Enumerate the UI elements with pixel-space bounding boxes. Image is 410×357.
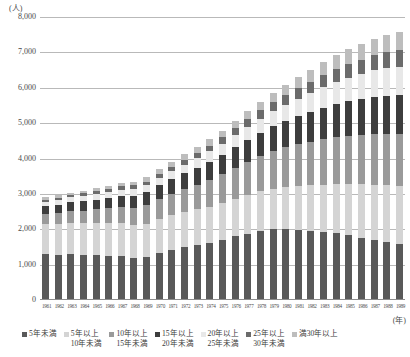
bar-segment (156, 185, 163, 199)
bar-segment (371, 70, 378, 96)
legend-item[interactable]: 5年以上10年未満 (64, 329, 103, 348)
legend-item[interactable]: 25年以上30年未満 (246, 329, 285, 348)
bar-segment (358, 184, 365, 237)
legend-item[interactable]: 10年以上15年未満 (109, 329, 148, 348)
bar-segment (333, 184, 340, 233)
bar-segment (181, 212, 188, 247)
x-axis-tick-label: 1986 (358, 301, 365, 315)
bar-segment (307, 82, 314, 93)
bar-segment (118, 223, 125, 256)
bar-segment (320, 62, 327, 75)
legend-item[interactable]: 5年未満 (22, 329, 57, 339)
bar-segment (371, 185, 378, 240)
bar-segment (206, 180, 213, 207)
bar-segment (156, 219, 163, 253)
bar-segment (181, 189, 188, 212)
x-axis-tick-label: 1980 (282, 301, 289, 315)
x-axis-tick-label: 1987 (371, 301, 378, 315)
legend-swatch (22, 332, 27, 337)
bar-segment (42, 214, 49, 224)
legend-swatch (155, 332, 160, 337)
bar-segment (257, 119, 264, 133)
bar-segment (295, 186, 302, 230)
bar-segment (257, 133, 264, 156)
bar-segment (143, 205, 150, 223)
bar-segment (371, 97, 378, 134)
bar-column (42, 17, 49, 300)
bar-segment (143, 185, 150, 192)
bar-segment (270, 126, 277, 151)
bar-segment (282, 187, 289, 229)
legend-label: 5年未満 (29, 329, 57, 339)
bar-segment (295, 116, 302, 144)
x-axis-tick-label: 1981 (295, 301, 302, 315)
bar-segment (383, 242, 390, 300)
x-axis-tick-label: 1989 (396, 301, 403, 315)
bar-segment (181, 173, 188, 189)
legend-item[interactable]: 15年以上20年未満 (155, 329, 194, 348)
bar-segment (383, 52, 390, 68)
bar-segment (55, 205, 62, 213)
x-axis-tick-label: 1975 (219, 301, 226, 315)
bar-segment (320, 108, 327, 139)
bar-segment (307, 112, 314, 142)
x-axis-tick-label: 1985 (345, 301, 352, 315)
bar-column (118, 17, 125, 300)
bar-column (282, 17, 289, 300)
legend-swatch (201, 332, 206, 337)
x-axis-tick-label: 1966 (105, 301, 112, 315)
bar-segment (118, 256, 125, 300)
bar-segment (80, 211, 87, 224)
bar-segment (320, 185, 327, 232)
plot-area (40, 17, 405, 300)
bar-segment (358, 99, 365, 135)
bar-segment (206, 207, 213, 243)
bar-column (358, 17, 365, 300)
bar-segment (105, 208, 112, 223)
x-axis-tick-label: 1979 (270, 301, 277, 315)
bar-column (295, 17, 302, 300)
bar-segment (295, 144, 302, 186)
bar-segment (244, 195, 251, 234)
bar-segment (67, 254, 74, 300)
bar-segment (333, 55, 340, 69)
legend-label-line2: 15年未満 (116, 339, 148, 349)
x-axis-tick-label: 1969 (143, 301, 150, 315)
bar-segment (232, 128, 239, 135)
x-axis-tick-label: 1983 (320, 301, 327, 315)
legend-item[interactable]: 満30年以上 (292, 329, 339, 339)
legend-swatch (64, 332, 69, 337)
bar-segment (345, 184, 352, 235)
bar-segment (307, 185, 314, 230)
x-axis-tick-label: 1962 (55, 301, 62, 315)
bar-segment (168, 179, 175, 194)
bar-segment (383, 96, 390, 135)
x-axis-tick-label: 1982 (307, 301, 314, 315)
bar-segment (270, 189, 277, 230)
bar-segment (232, 199, 239, 236)
legend-label-line2: 30年未満 (253, 339, 285, 349)
bar-segment (396, 95, 403, 134)
legend-item[interactable]: 20年以上25年未満 (201, 329, 240, 348)
bar-segment (55, 224, 62, 255)
x-axis-tick-label: 1974 (206, 301, 213, 315)
bar-segment (219, 131, 226, 138)
bar-segment (345, 101, 352, 136)
bar-column (93, 17, 100, 300)
bar-segment (156, 253, 163, 300)
x-axis-unit-label: (年) (393, 314, 406, 325)
bar-segment (232, 135, 239, 147)
bar-segment (333, 82, 340, 104)
bar-column (206, 17, 213, 300)
bar-segment (168, 215, 175, 249)
x-axis-tick-label: 1964 (80, 301, 87, 315)
y-axis-tick-label: 7,000 (0, 47, 36, 56)
bar-segment (156, 178, 163, 186)
legend-swatch (246, 332, 251, 337)
y-axis-tick-label: 3,000 (0, 189, 36, 198)
bar-segment (282, 85, 289, 95)
bar-column (307, 17, 314, 300)
bar-column (396, 17, 403, 300)
bar-segment (320, 87, 327, 108)
bar-column (257, 17, 264, 300)
